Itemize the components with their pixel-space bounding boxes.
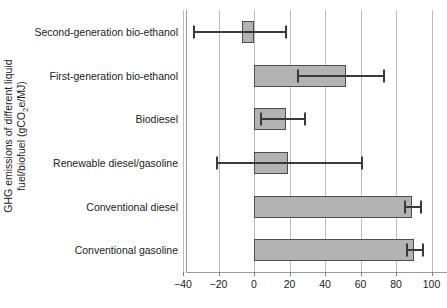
error-bar-line xyxy=(261,118,305,120)
category-label-1: Second-generation bio-ethanol xyxy=(30,26,178,38)
category-label-3: Biodiesel xyxy=(30,113,178,125)
y-axis-line xyxy=(186,10,187,272)
bar xyxy=(254,196,412,218)
tickmark--20 xyxy=(219,272,220,276)
x-tick-label-20: 20 xyxy=(284,278,296,290)
gridline-0 xyxy=(254,10,255,272)
gridline-100 xyxy=(432,10,433,272)
gridline--20 xyxy=(219,10,220,272)
chart-figure: GHG emissions of different liquid fuel/b… xyxy=(0,0,447,308)
y-axis-title-line2-post: e/MJ) xyxy=(15,81,27,107)
x-tick-label--20: −20 xyxy=(210,278,228,290)
error-bar-cap-high xyxy=(383,69,385,82)
category-label-2: First-generation bio-ethanol xyxy=(30,70,178,82)
error-bar-cap-low xyxy=(193,25,195,38)
tickmark-40 xyxy=(325,272,326,276)
tickmark--40 xyxy=(183,272,184,276)
error-bar-cap-high xyxy=(304,113,306,126)
gridline-20 xyxy=(290,10,291,272)
y-axis-title-subscript: 2 xyxy=(21,108,30,112)
error-bar-line xyxy=(217,162,363,164)
error-bar-cap-low xyxy=(216,156,218,169)
error-bar-line xyxy=(407,249,423,251)
tickmark-100 xyxy=(432,272,433,276)
tickmark-0 xyxy=(254,272,255,276)
y-axis-category-labels: Second-generation bio-ethanolFirst-gener… xyxy=(34,10,182,272)
error-bar-cap-low xyxy=(297,69,299,82)
error-bar-cap-low xyxy=(404,200,406,213)
x-tick-label-40: 40 xyxy=(319,278,331,290)
y-axis-title: GHG emissions of different liquid fuel/b… xyxy=(0,0,34,272)
category-label-6: Conventional gasoline xyxy=(30,244,178,256)
x-tick-label-100: 100 xyxy=(423,278,441,290)
tickmark-60 xyxy=(361,272,362,276)
x-tick-label-80: 80 xyxy=(390,278,402,290)
error-bar-cap-high xyxy=(285,25,287,38)
error-bar-cap-high xyxy=(420,200,422,213)
x-tick-label-0: 0 xyxy=(251,278,257,290)
y-axis-title-line2-pre: fuel/biofuel (gCO xyxy=(15,112,27,191)
error-bar-cap-low xyxy=(406,244,408,257)
error-bar-cap-high xyxy=(422,244,424,257)
category-label-5: Conventional diesel xyxy=(30,201,178,213)
x-tick-label--40: −40 xyxy=(174,278,192,290)
y-axis-title-text: GHG emissions of different liquid fuel/b… xyxy=(2,59,32,212)
tickmark-80 xyxy=(396,272,397,276)
error-bar-line xyxy=(405,206,421,208)
error-bar-line xyxy=(194,31,286,33)
error-bar-cap-low xyxy=(260,113,262,126)
error-bar-cap-high xyxy=(361,156,363,169)
tickmark-20 xyxy=(290,272,291,276)
x-tick-label-60: 60 xyxy=(355,278,367,290)
x-axis-line xyxy=(186,272,447,273)
y-axis-title-line2: fuel/biofuel (gCO2e/MJ) xyxy=(15,59,32,212)
y-axis-title-line1: GHG emissions of different liquid xyxy=(2,59,14,212)
gridline-60 xyxy=(361,10,362,272)
category-label-4: Renewable diesel/gasoline xyxy=(30,157,178,169)
gridline-80 xyxy=(396,10,397,272)
gridline--40 xyxy=(183,10,184,272)
bar xyxy=(254,239,414,261)
error-bar-line xyxy=(298,75,383,77)
plot-area: −40−20020406080100 xyxy=(186,10,447,272)
gridline-40 xyxy=(325,10,326,272)
